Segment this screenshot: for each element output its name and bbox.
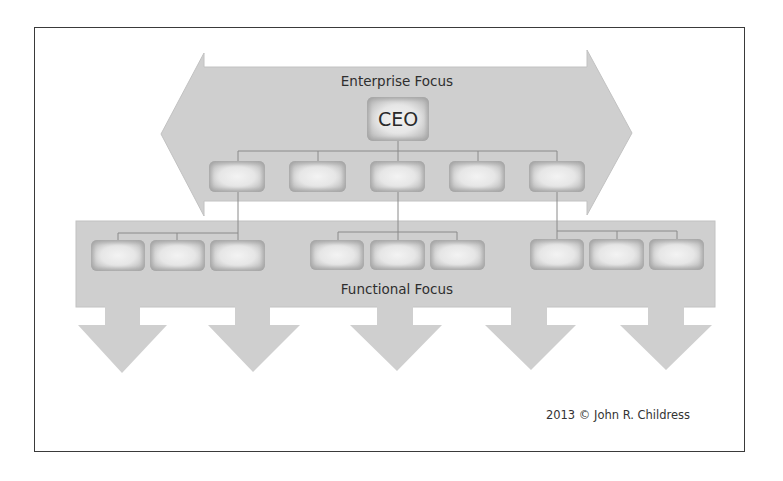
- enterprise-node-1: [209, 161, 265, 192]
- functional-node-3-3: [649, 239, 704, 270]
- down-arrow-1: [78, 306, 167, 373]
- enterprise-node-3: [370, 161, 425, 192]
- down-arrow-3: [350, 306, 442, 371]
- functional-node-2-1: [310, 240, 364, 270]
- down-arrow-5: [620, 306, 712, 370]
- functional-node-2-2: [370, 240, 425, 270]
- enterprise-node-5: [529, 161, 585, 192]
- ceo-label: CEO: [378, 108, 418, 130]
- enterprise-node-2: [289, 161, 346, 192]
- functional-node-2-3: [430, 240, 485, 270]
- functional-node-3-2: [589, 239, 644, 270]
- down-arrow-4: [485, 306, 576, 370]
- ceo-node: CEO: [367, 97, 429, 141]
- copyright-notice: 2013 © John R. Childress: [528, 408, 708, 422]
- down-arrow-2: [208, 306, 300, 372]
- functional-node-1-1: [91, 240, 145, 271]
- functional-node-3-1: [530, 239, 584, 270]
- enterprise-focus-label: Enterprise Focus: [327, 73, 467, 89]
- functional-node-1-3: [210, 240, 265, 271]
- functional-focus-label: Functional Focus: [322, 281, 472, 297]
- enterprise-node-4: [449, 161, 505, 192]
- functional-node-1-2: [150, 240, 205, 271]
